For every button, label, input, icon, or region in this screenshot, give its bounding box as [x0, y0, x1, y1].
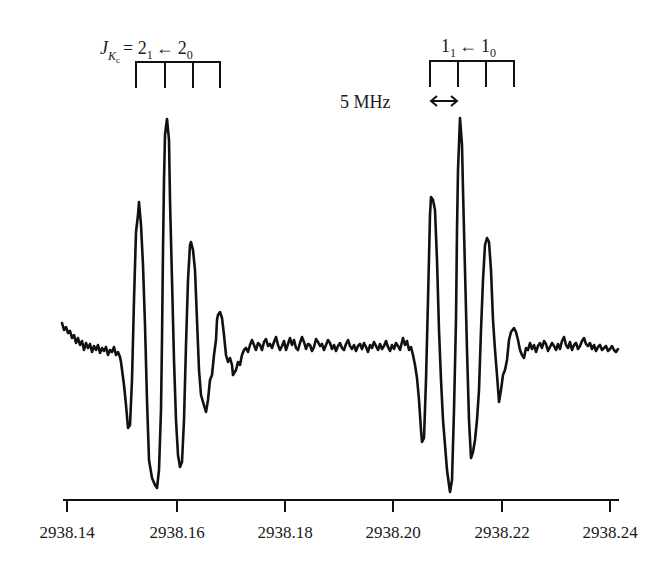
bracket-right: 11←10 [430, 36, 514, 87]
bracket-left: JKc= 21←20 [100, 38, 220, 88]
label-sub0: 0 [490, 46, 496, 60]
spectrum-trace [62, 118, 618, 492]
label-eq: = 2 [123, 38, 147, 58]
x-tick-label: 2938.18 [257, 523, 312, 542]
x-axis: 2938.142938.162938.182938.202938.222938.… [39, 500, 638, 542]
label-arrow: ← [459, 36, 477, 56]
bracket-right-top [430, 61, 514, 87]
x-tick-label: 2938.20 [365, 523, 420, 542]
label-arrow: ← [156, 38, 174, 58]
label-sub1: 1 [147, 48, 153, 62]
annotation-left: JKc= 21←20 [100, 38, 193, 65]
label-sub0: 0 [187, 48, 193, 62]
label-2: 2 [178, 38, 187, 58]
label-c: c [116, 55, 120, 65]
label-1: 1 [441, 36, 450, 56]
x-tick-label: 2938.22 [474, 523, 529, 542]
x-axis-ticks: 2938.142938.162938.182938.202938.222938.… [39, 500, 638, 542]
label-sub1: 1 [450, 46, 456, 60]
annotation-right: 11←10 [441, 36, 496, 60]
scale-label: 5 MHz [340, 92, 391, 112]
label-1b: 1 [481, 36, 490, 56]
spectrum-figure: 2938.142938.162938.182938.202938.222938.… [0, 0, 669, 566]
scale-bar: 5 MHz [340, 92, 457, 112]
x-tick-label: 2938.16 [149, 523, 204, 542]
x-tick-label: 2938.24 [582, 523, 638, 542]
x-tick-label: 2938.14 [39, 523, 95, 542]
bracket-left-top [136, 62, 220, 88]
double-arrow-icon [431, 96, 457, 106]
